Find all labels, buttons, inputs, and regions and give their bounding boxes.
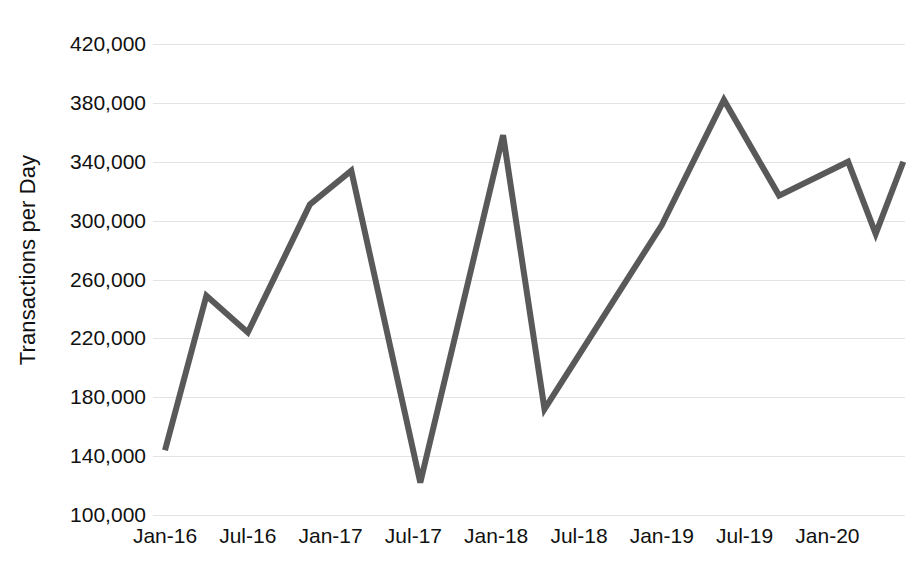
series-line-layer xyxy=(0,0,915,587)
line-chart: Transactions per Day 420,000380,000340,0… xyxy=(0,0,915,587)
series-line-transactions-per-day xyxy=(165,100,903,483)
